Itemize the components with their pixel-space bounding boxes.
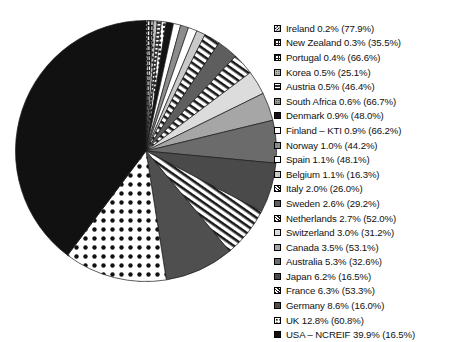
- legend-item[interactable]: France 6.3% (53.3%): [274, 284, 451, 299]
- legend-item[interactable]: Germany 8.6% (16.0%): [274, 298, 451, 313]
- legend-swatch-icon: [274, 273, 281, 280]
- legend-item-label: Canada 3.5% (53.1%): [286, 242, 379, 253]
- legend-swatch-icon: [274, 54, 281, 61]
- legend-item[interactable]: Austria 0.5% (46.4%): [274, 79, 451, 94]
- legend-item[interactable]: Ireland 0.2% (77.9%): [274, 21, 451, 36]
- legend-item-label: Denmark 0.9% (48.0%): [286, 110, 384, 121]
- legend-swatch-icon: [274, 185, 281, 192]
- legend-item[interactable]: Finland – KTI 0.9% (66.2%): [274, 123, 451, 138]
- legend-item-label: Ireland 0.2% (77.9%): [286, 23, 374, 34]
- legend-swatch-icon: [274, 112, 281, 119]
- legend-swatch-icon: [274, 83, 281, 90]
- legend-item[interactable]: Spain 1.1% (48.1%): [274, 152, 451, 167]
- legend-swatch-icon: [274, 317, 281, 324]
- legend-item[interactable]: Netherlands 2.7% (52.0%): [274, 211, 451, 226]
- legend-item-label: UK 12.8% (60.8%): [286, 315, 364, 326]
- legend-swatch-icon: [274, 302, 281, 309]
- legend-item-label: France 6.3% (53.3%): [286, 285, 375, 296]
- legend-item[interactable]: Australia 5.3% (32.6%): [274, 255, 451, 270]
- legend-item[interactable]: South Africa 0.6% (66.7%): [274, 94, 451, 109]
- legend-item-label: Switzerland 3.0% (31.2%): [286, 227, 394, 238]
- legend-item-label: USA – NCREIF 39.9% (16.5%): [286, 329, 415, 340]
- legend-swatch-icon: [274, 156, 281, 163]
- legend-item-label: Austria 0.5% (46.4%): [286, 81, 375, 92]
- legend-item-label: Germany 8.6% (16.0%): [286, 300, 384, 311]
- legend-item[interactable]: Korea 0.5% (25.1%): [274, 65, 451, 80]
- legend-swatch-icon: [274, 287, 281, 294]
- legend-item[interactable]: UK 12.8% (60.8%): [274, 313, 451, 328]
- legend-item-label: Norway 1.0% (44.2%): [286, 140, 377, 151]
- legend-swatch-icon: [274, 215, 281, 222]
- legend-item[interactable]: Sweden 2.6% (29.2%): [274, 196, 451, 211]
- legend-item[interactable]: Japan 6.2% (16.5%): [274, 269, 451, 284]
- legend-swatch-icon: [274, 69, 281, 76]
- chart-legend: Ireland 0.2% (77.9%)New Zealand 0.3% (35…: [274, 21, 451, 342]
- legend-item-label: South Africa 0.6% (66.7%): [286, 96, 396, 107]
- legend-swatch-icon: [274, 25, 281, 32]
- legend-item[interactable]: Canada 3.5% (53.1%): [274, 240, 451, 255]
- legend-item-label: Australia 5.3% (32.6%): [286, 256, 382, 267]
- legend-swatch-icon: [274, 39, 281, 46]
- legend-swatch-icon: [274, 229, 281, 236]
- legend-swatch-icon: [274, 244, 281, 251]
- legend-item[interactable]: Denmark 0.9% (48.0%): [274, 109, 451, 124]
- legend-item[interactable]: Italy 2.0% (26.0%): [274, 182, 451, 197]
- legend-item-label: Italy 2.0% (26.0%): [286, 183, 363, 194]
- legend-item[interactable]: Switzerland 3.0% (31.2%): [274, 225, 451, 240]
- legend-item-label: Korea 0.5% (25.1%): [286, 67, 371, 78]
- pie-chart-area: [0, 0, 290, 300]
- legend-item[interactable]: New Zealand 0.3% (35.5%): [274, 36, 451, 51]
- legend-swatch-icon: [274, 127, 281, 134]
- legend-item-label: Finland – KTI 0.9% (66.2%): [286, 125, 401, 136]
- pie-chart-svg: [0, 0, 290, 300]
- legend-item-label: Sweden 2.6% (29.2%): [286, 198, 380, 209]
- legend-item-label: Portugal 0.4% (66.6%): [286, 52, 380, 63]
- legend-item[interactable]: Belgium 1.1% (16.3%): [274, 167, 451, 182]
- legend-item[interactable]: Norway 1.0% (44.2%): [274, 138, 451, 153]
- legend-swatch-icon: [274, 200, 281, 207]
- legend-item-label: Netherlands 2.7% (52.0%): [286, 213, 396, 224]
- legend-item-label: New Zealand 0.3% (35.5%): [286, 37, 401, 48]
- legend-item[interactable]: Portugal 0.4% (66.6%): [274, 50, 451, 65]
- legend-item-label: Spain 1.1% (48.1%): [286, 154, 370, 165]
- legend-swatch-icon: [274, 258, 281, 265]
- legend-swatch-icon: [274, 98, 281, 105]
- legend-item-label: Japan 6.2% (16.5%): [286, 271, 371, 282]
- pie-slice-group: [16, 21, 277, 282]
- legend-item[interactable]: USA – NCREIF 39.9% (16.5%): [274, 327, 451, 342]
- legend-swatch-icon: [274, 171, 281, 178]
- legend-swatch-icon: [274, 331, 281, 338]
- legend-item-label: Belgium 1.1% (16.3%): [286, 169, 379, 180]
- legend-swatch-icon: [274, 142, 281, 149]
